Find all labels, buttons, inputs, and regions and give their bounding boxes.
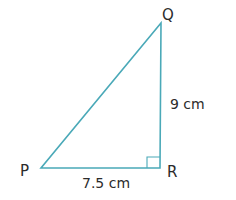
triangle-pqr	[41, 23, 161, 168]
vertex-label-p: P	[20, 162, 29, 180]
vertex-label-r: R	[167, 163, 177, 181]
right-angle-marker	[147, 157, 160, 168]
side-label-pr: 7.5 cm	[82, 175, 130, 191]
side-label-qr: 9 cm	[170, 96, 205, 112]
vertex-label-q: Q	[162, 6, 174, 24]
triangle-diagram: Q P R 9 cm 7.5 cm	[0, 0, 236, 200]
